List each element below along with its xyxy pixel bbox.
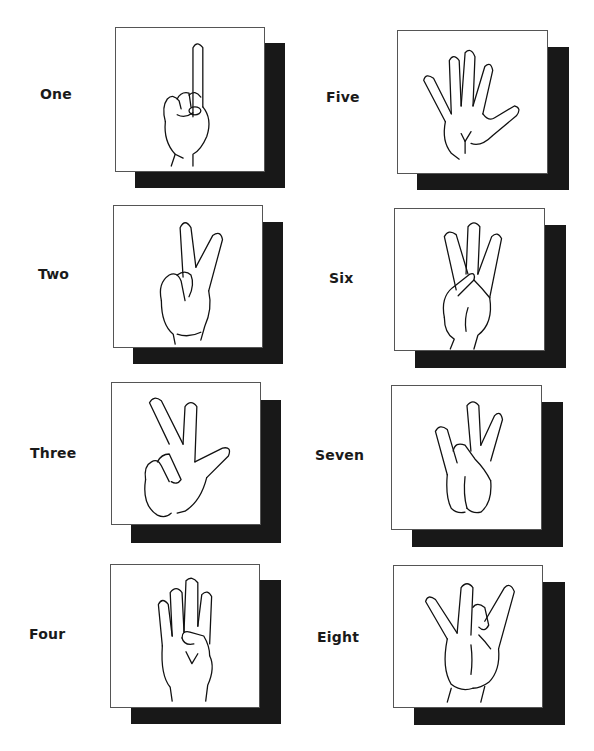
sign-card-five [397,30,548,174]
hand-five-fingers-icon [398,31,547,173]
sign-label-four: Four [29,626,65,642]
hand-three-fingers-icon [112,383,260,524]
hand-eight-sign-icon [394,566,542,707]
sign-card-three [111,382,261,525]
sign-label-one: One [40,86,72,102]
hand-seven-sign-icon [392,386,541,529]
sign-label-three: Three [30,445,76,461]
hand-one-finger-icon [116,28,264,171]
sign-card-six [394,208,545,351]
sign-label-five: Five [326,89,360,105]
hand-two-fingers-icon [114,206,262,347]
sign-card-four [110,564,260,708]
sign-label-two: Two [38,266,69,282]
sign-label-seven: Seven [315,447,364,463]
sign-card-seven [391,385,542,530]
sign-card-two [113,205,263,348]
hand-six-sign-icon [395,209,544,350]
hand-four-fingers-icon [111,565,259,707]
sign-label-eight: Eight [317,629,359,645]
sign-card-one [115,27,265,172]
sign-card-eight [393,565,543,708]
sign-label-six: Six [329,270,354,286]
